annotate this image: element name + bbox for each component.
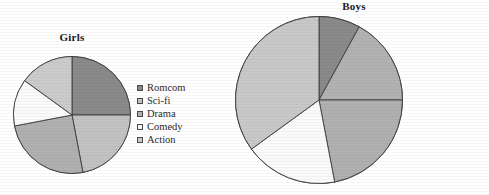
legend-item-label: Sci-fi xyxy=(147,94,170,107)
legend-swatch-icon xyxy=(137,85,143,91)
legend-swatch-icon xyxy=(137,137,143,143)
legend-item: Drama xyxy=(137,107,186,120)
legend-swatch-icon xyxy=(137,98,143,104)
boys-chart-title: Boys xyxy=(308,0,400,12)
girls-pie-chart xyxy=(12,55,132,175)
legend-item: Action xyxy=(137,133,186,146)
legend-item-label: Drama xyxy=(147,107,176,120)
legend-item-label: Action xyxy=(147,133,176,146)
pie-charts-figure: Girls RomcomSci-fiDramaComedyAction Boys… xyxy=(0,0,489,195)
legend-item: Comedy xyxy=(137,120,186,133)
legend-item-label: Romcom xyxy=(147,81,186,94)
boys-pie-chart xyxy=(234,15,404,185)
legend-item-label: Comedy xyxy=(147,120,183,133)
legend-item: Romcom xyxy=(137,81,186,94)
legend-swatch-icon xyxy=(137,124,143,130)
legend-item: Sci-fi xyxy=(137,94,186,107)
girls-slice-romcom xyxy=(72,57,131,116)
girls-legend: RomcomSci-fiDramaComedyAction xyxy=(137,81,186,146)
girls-chart-title: Girls xyxy=(26,31,118,43)
girls-chart-panel: Girls RomcomSci-fiDramaComedyAction xyxy=(0,0,215,195)
legend-swatch-icon xyxy=(137,111,143,117)
boys-chart-panel: Boys RomcomSci-fiDramaComedyAction xyxy=(222,0,489,195)
